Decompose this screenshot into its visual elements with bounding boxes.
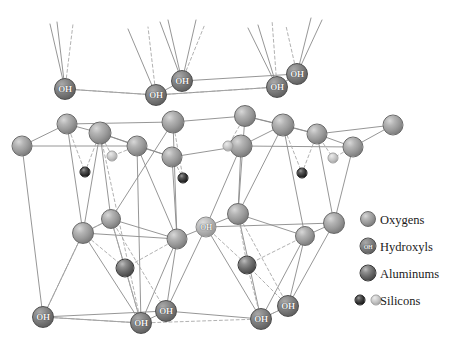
- legend-item-aluminum: Aluminums: [355, 260, 450, 287]
- atom-label-hydroxyl-bot-4: OH: [254, 315, 267, 324]
- crystal-structure-figure: OHOHOHOHOHOHOHOHOHOHOH OxygensOHHydroxyl…: [0, 0, 450, 341]
- atom-hydroxyl-top-3: OH: [171, 70, 193, 92]
- silicon-dark-sphere-icon: [355, 295, 366, 306]
- bond-line-solid: [206, 223, 334, 227]
- legend-swatch-silicon-icon: [355, 287, 381, 314]
- legend-item-oxygen: Oxygens: [355, 206, 450, 233]
- bond-line-solid: [83, 133, 100, 233]
- bond-line-solid: [83, 233, 141, 323]
- atom-hydroxyl-top-4: OH: [266, 76, 288, 98]
- legend-swatch-label: OH: [364, 243, 373, 249]
- atom-silicon-dark-3: [297, 168, 308, 179]
- atom-oxygen-u-11: [343, 137, 364, 158]
- atom-oxygen-m-1: [72, 222, 94, 244]
- atom-oxygen-m-3: [167, 229, 188, 250]
- legend-swatch-hydroxyl-icon: OH: [355, 233, 381, 260]
- atom-label-hydroxyl-bot-2: OH: [134, 319, 147, 328]
- atom-silicon-light-1: [107, 151, 118, 162]
- oxygen-sphere-icon: [360, 211, 376, 227]
- legend-label-hydroxyl: Hydroxyls: [380, 239, 433, 254]
- legend-label-oxygen: Oxygens: [380, 212, 424, 227]
- atom-hydroxyl-bot-5: OH: [277, 295, 299, 317]
- aluminum-sphere-icon: [360, 265, 377, 282]
- atom-silicon-light-3: [328, 153, 339, 164]
- legend: OxygensOHHydroxylsAluminumsSilicons: [355, 206, 450, 314]
- bond-line-solid: [317, 134, 334, 223]
- atom-oxygen-u-6: [162, 147, 183, 168]
- atom-label-hydroxyl-top-1: OH: [58, 85, 71, 94]
- atom-hydroxyl-bot-4: OH: [250, 308, 272, 330]
- atom-label-hydroxyl-bot-1: OH: [36, 313, 49, 322]
- legend-swatch-aluminum-icon: [355, 260, 381, 287]
- atom-label-hydroxyl-top-2: OH: [149, 91, 162, 100]
- atom-silicon-dark-2: [178, 173, 189, 184]
- atom-oxygen-u-9: [272, 114, 295, 137]
- atom-hydroxyl-bot-1: OH: [32, 306, 54, 328]
- atom-hydroxyl-bot-3: OH: [155, 300, 177, 322]
- atom-oxygen-m-6: [323, 212, 345, 234]
- atom-label-hydroxyl-top-3: OH: [175, 77, 188, 86]
- legend-swatch-oxygen-icon: [355, 206, 381, 233]
- atom-hydroxyl-m-1: OH: [196, 217, 217, 238]
- atom-oxygen-u-1: [12, 136, 33, 157]
- atom-oxygen-u-10: [307, 124, 328, 145]
- legend-item-hydroxyl: OHHydroxyls: [355, 233, 450, 260]
- atom-silicon-light-2: [223, 141, 234, 152]
- atom-oxygen-u-5: [162, 111, 185, 134]
- atom-oxygen-u-2: [57, 114, 78, 135]
- bond-line-dashed: [43, 233, 83, 317]
- atom-aluminum-2: [238, 256, 257, 275]
- atom-oxygen-m-5: [295, 226, 315, 246]
- bond-line-solid: [166, 311, 261, 319]
- atom-hydroxyl-bot-2: OH: [130, 312, 152, 334]
- atom-oxygen-u-3: [89, 122, 112, 145]
- atom-label-hydroxyl-bot-5: OH: [281, 302, 294, 311]
- atom-hydroxyl-top-2: OH: [145, 84, 167, 106]
- bond-line-solid: [241, 146, 353, 147]
- atom-oxygen-m-4: [227, 203, 249, 225]
- atom-oxygen-u-7: [234, 105, 256, 127]
- legend-label-silicon: Silicons: [380, 293, 420, 308]
- bond-line-solid: [67, 122, 173, 124]
- atom-hydroxyl-top-5: OH: [286, 63, 308, 85]
- solid-bonds-group: [22, 18, 393, 323]
- atom-label-hydroxyl-m-1: OH: [200, 223, 212, 231]
- atom-label-hydroxyl-top-4: OH: [270, 83, 283, 92]
- atom-aluminum-1: [116, 259, 135, 278]
- bond-line-solid: [22, 146, 43, 317]
- bond-line-solid: [43, 317, 141, 323]
- atom-oxygen-u-4: [127, 136, 148, 157]
- atom-label-hydroxyl-top-5: OH: [290, 70, 303, 79]
- atom-hydroxyl-top-1: OH: [54, 78, 76, 100]
- atom-label-hydroxyl-bot-3: OH: [159, 307, 172, 316]
- atom-oxygen-m-2: [101, 209, 121, 229]
- hydroxyl-sphere-icon: OH: [360, 238, 377, 255]
- atom-oxygen-u-12: [383, 115, 404, 136]
- bond-line-solid: [283, 125, 305, 236]
- bond-line-solid: [67, 124, 83, 233]
- legend-label-aluminum: Aluminums: [380, 266, 439, 281]
- atom-silicon-dark-1: [80, 167, 91, 178]
- legend-item-silicon: Silicons: [355, 287, 450, 314]
- bond-line-solid: [83, 233, 177, 239]
